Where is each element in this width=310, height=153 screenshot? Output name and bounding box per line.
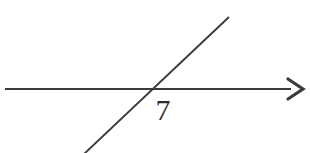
angle-label-7: 7 <box>156 93 171 126</box>
geometry-figure-canvas: 7 <box>0 0 310 153</box>
figure-svg: 7 <box>0 0 310 153</box>
figure-background <box>0 0 310 153</box>
